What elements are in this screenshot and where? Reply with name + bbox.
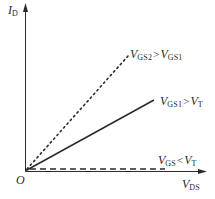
x-axis-label: VDS bbox=[182, 178, 200, 192]
label-part: GS2 bbox=[137, 53, 152, 62]
x-axis-label-sub: DS bbox=[189, 183, 200, 192]
label-part: V bbox=[184, 153, 191, 167]
label-operator: > bbox=[153, 48, 159, 60]
curve-label-vgs1: VGS1>VT bbox=[160, 95, 203, 109]
curve-label-vgs2: VGS2>VGS1 bbox=[130, 48, 183, 62]
y-axis-label-sub: D bbox=[12, 9, 18, 18]
curve-vgs1-solid bbox=[26, 100, 154, 171]
y-axis-arrow-icon bbox=[23, 3, 28, 12]
curve-label-vgs-below-threshold: VGS<VT bbox=[158, 154, 197, 168]
label-part: GS bbox=[165, 159, 176, 168]
y-axis-label: ID bbox=[8, 4, 18, 18]
origin-label-text: O bbox=[16, 173, 25, 187]
origin-label: O bbox=[16, 174, 25, 186]
label-part: V bbox=[190, 94, 197, 108]
curve-vgs2-dotted bbox=[27, 56, 128, 169]
label-part: T bbox=[198, 100, 203, 109]
label-part: T bbox=[192, 159, 197, 168]
label-part: V bbox=[160, 47, 167, 61]
label-part: GS1 bbox=[168, 53, 183, 62]
x-axis-arrow-icon bbox=[198, 169, 207, 174]
label-operator: < bbox=[177, 154, 183, 166]
label-operator: > bbox=[183, 95, 189, 107]
label-part: GS1 bbox=[167, 100, 182, 109]
